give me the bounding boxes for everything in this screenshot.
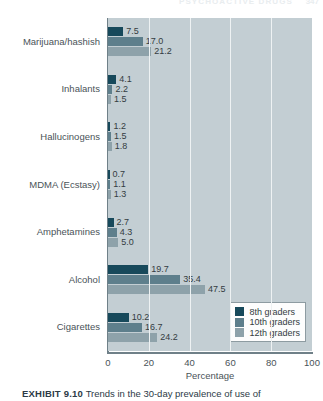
gridline: [149, 18, 150, 351]
caption-text: Trends in the 30-day prevalence of use o…: [86, 388, 261, 399]
bar[interactable]: [108, 238, 118, 247]
bar-value-label: 16.7: [142, 322, 163, 332]
running-header: PSYCHOACTIVE DRUGS 347: [0, 0, 323, 11]
plot-area: 7.517.021.24.12.21.51.21.51.80.71.11.32.…: [108, 18, 312, 351]
legend-swatch-icon: [235, 307, 244, 316]
x-tick-label: 40: [184, 357, 195, 368]
legend-label: 8th graders: [249, 307, 295, 317]
bar-row: 0.7: [108, 170, 312, 179]
bar-value-label: 1.2: [110, 121, 126, 131]
page-number: 347: [306, 0, 319, 6]
category-label: Amphetamines: [37, 226, 100, 237]
category-label: Alcohol: [69, 274, 100, 285]
bar-value-label: 5.0: [118, 237, 134, 247]
bar-group: 19.735.447.5: [108, 265, 312, 295]
bar[interactable]: [108, 313, 129, 322]
bar-row: 21.2: [108, 47, 312, 56]
bar-row: 1.5: [108, 132, 312, 141]
running-header-title: PSYCHOACTIVE DRUGS: [179, 0, 293, 6]
bar-group: 1.21.51.8: [108, 122, 312, 152]
category-label: Cigarettes: [57, 321, 100, 332]
x-tick-label: 60: [225, 357, 236, 368]
bar-row: 1.3: [108, 190, 312, 199]
bar-row: 1.8: [108, 142, 312, 151]
bar-group: 2.74.35.0: [108, 218, 312, 248]
bar[interactable]: [108, 27, 123, 36]
legend-item[interactable]: 8th graders: [235, 307, 300, 317]
bar-row: 47.5: [108, 285, 312, 294]
bar-value-label: 17.0: [143, 36, 164, 46]
bar-value-label: 10.2: [129, 312, 150, 322]
legend-item[interactable]: 10th graders: [235, 317, 300, 327]
bar[interactable]: [108, 333, 157, 342]
bar-row: 7.5: [108, 27, 312, 36]
bar-row: 2.2: [108, 85, 312, 94]
category-label: Hallucinogens: [40, 131, 100, 142]
bar-chart-figure: Marijuana/hashishInhalantsHallucinogensM…: [0, 11, 323, 386]
bar-row: 1.5: [108, 95, 312, 104]
x-axis-tick-labels: 020406080100: [0, 357, 323, 371]
bar-group: 4.12.21.5: [108, 75, 312, 105]
legend-label: 10th graders: [249, 317, 300, 327]
bar-value-label: 24.2: [157, 332, 178, 342]
bar-row: 2.7: [108, 218, 312, 227]
bar-value-label: 2.2: [112, 84, 128, 94]
bar-value-label: 1.1: [110, 179, 126, 189]
bar[interactable]: [108, 47, 151, 56]
category-label: Inhalants: [61, 83, 100, 94]
category-axis-labels: Marijuana/hashishInhalantsHallucinogensM…: [0, 18, 104, 351]
bar[interactable]: [108, 275, 180, 284]
legend-label: 12th graders: [249, 328, 300, 338]
legend: 8th graders10th graders12th graders: [230, 302, 306, 342]
x-tick-label: 80: [266, 357, 277, 368]
bar-value-label: 1.3: [111, 189, 127, 199]
x-tick-label: 20: [144, 357, 155, 368]
bar[interactable]: [108, 265, 148, 274]
bar-value-label: 1.5: [111, 94, 127, 104]
bar-row: 17.0: [108, 37, 312, 46]
gridline: [190, 18, 191, 351]
x-axis-title: Percentage: [108, 370, 312, 381]
bar-row: 35.4: [108, 275, 312, 284]
gridline: [230, 18, 231, 351]
caption-exhibit-number: EXHIBIT 9.10: [22, 388, 83, 399]
bar-row: 1.1: [108, 180, 312, 189]
bar-value-label: 7.5: [123, 26, 139, 36]
x-axis-line: [107, 352, 313, 354]
bar-value-label: 1.5: [111, 131, 127, 141]
bar-row: 19.7: [108, 265, 312, 274]
bar[interactable]: [108, 323, 142, 332]
bar-row: 5.0: [108, 238, 312, 247]
category-label: Marijuana/hashish: [23, 36, 100, 47]
category-label: MDMA (Ecstasy): [29, 179, 100, 190]
bar-row: 4.1: [108, 75, 312, 84]
legend-swatch-icon: [235, 328, 244, 337]
bar-group: 7.517.021.2: [108, 27, 312, 57]
x-tick-label: 100: [304, 357, 320, 368]
bar-value-label: 21.2: [151, 46, 172, 56]
figure-caption: EXHIBIT 9.10 Trends in the 30-day preval…: [22, 388, 317, 401]
bar-value-label: 4.3: [117, 227, 133, 237]
bar[interactable]: [108, 37, 143, 46]
bar-value-label: 0.7: [110, 169, 126, 179]
bar-row: 1.2: [108, 122, 312, 131]
bar-value-label: 19.7: [148, 264, 169, 274]
bar-row: 4.3: [108, 228, 312, 237]
bar-value-label: 2.7: [114, 217, 130, 227]
bar-value-label: 1.8: [112, 141, 128, 151]
legend-swatch-icon: [235, 318, 244, 327]
bar[interactable]: [108, 75, 116, 84]
gridline: [271, 18, 272, 351]
x-tick-label: 0: [105, 357, 110, 368]
bar-value-label: 4.1: [116, 74, 132, 84]
legend-item[interactable]: 12th graders: [235, 328, 300, 338]
bar-value-label: 47.5: [205, 284, 226, 294]
bar[interactable]: [108, 228, 117, 237]
bar-group: 0.71.11.3: [108, 170, 312, 200]
